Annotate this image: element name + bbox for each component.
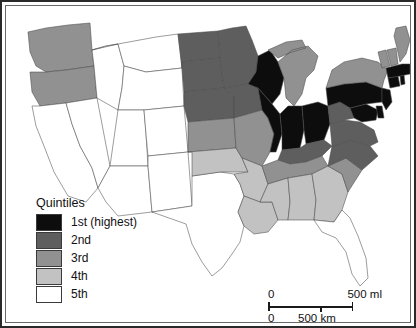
state-WA[interactable]: [28, 23, 94, 72]
scale-tick-left: [268, 302, 270, 311]
legend-swatch-3rd: [36, 250, 62, 267]
state-AL[interactable]: [288, 174, 316, 220]
state-NJ[interactable]: [382, 88, 392, 110]
state-DE[interactable]: [376, 106, 384, 118]
legend-swatch-4th: [36, 268, 62, 285]
map-figure-frame: Quintiles 1st (highest) 2nd 3rd 4th 5th …: [0, 0, 416, 328]
state-WY[interactable]: [118, 66, 184, 110]
state-FL[interactable]: [314, 210, 368, 286]
legend-title: Quintiles: [36, 196, 166, 210]
map-scale-bar: 0 500 ml 0 500 km: [268, 288, 388, 323]
state-CO[interactable]: [144, 106, 188, 156]
state-OH[interactable]: [302, 102, 330, 144]
state-NE[interactable]: [184, 88, 234, 122]
map-legend: Quintiles 1st (highest) 2nd 3rd 4th 5th: [36, 196, 166, 303]
legend-swatch-2nd: [36, 232, 62, 249]
scale-tick-right: [352, 302, 354, 311]
state-IN[interactable]: [280, 106, 304, 150]
state-UT[interactable]: [110, 110, 148, 166]
legend-item-5th: 5th: [36, 285, 166, 303]
legend-item-4th: 4th: [36, 267, 166, 285]
scale-miles-max: 500 ml: [347, 288, 382, 300]
map-inner-border: Quintiles 1st (highest) 2nd 3rd 4th 5th …: [5, 5, 411, 323]
state-RI[interactable]: [400, 75, 405, 85]
legend-item-3rd: 3rd: [36, 249, 166, 267]
state-SD[interactable]: [182, 58, 224, 92]
legend-label-1st: 1st (highest): [71, 214, 137, 231]
legend-item-1st: 1st (highest): [36, 213, 166, 231]
scale-miles-zero: 0: [268, 288, 274, 300]
scale-miles-labels: 0 500 ml: [268, 288, 388, 302]
legend-item-2nd: 2nd: [36, 231, 166, 249]
legend-swatch-1st: [36, 214, 62, 231]
scale-bar-line: [268, 306, 353, 308]
legend-label-5th: 5th: [71, 286, 88, 303]
state-KS[interactable]: [188, 118, 236, 152]
scale-bar-graphic: [268, 302, 353, 311]
legend-swatch-5th: [36, 286, 62, 303]
scale-km-labels: 0 500 km: [268, 312, 388, 323]
legend-label-4th: 4th: [71, 268, 88, 285]
legend-label-2nd: 2nd: [71, 232, 91, 249]
legend-label-3rd: 3rd: [71, 250, 88, 267]
scale-km-max: 500 km: [298, 312, 336, 323]
scale-km-zero: 0: [268, 312, 274, 323]
